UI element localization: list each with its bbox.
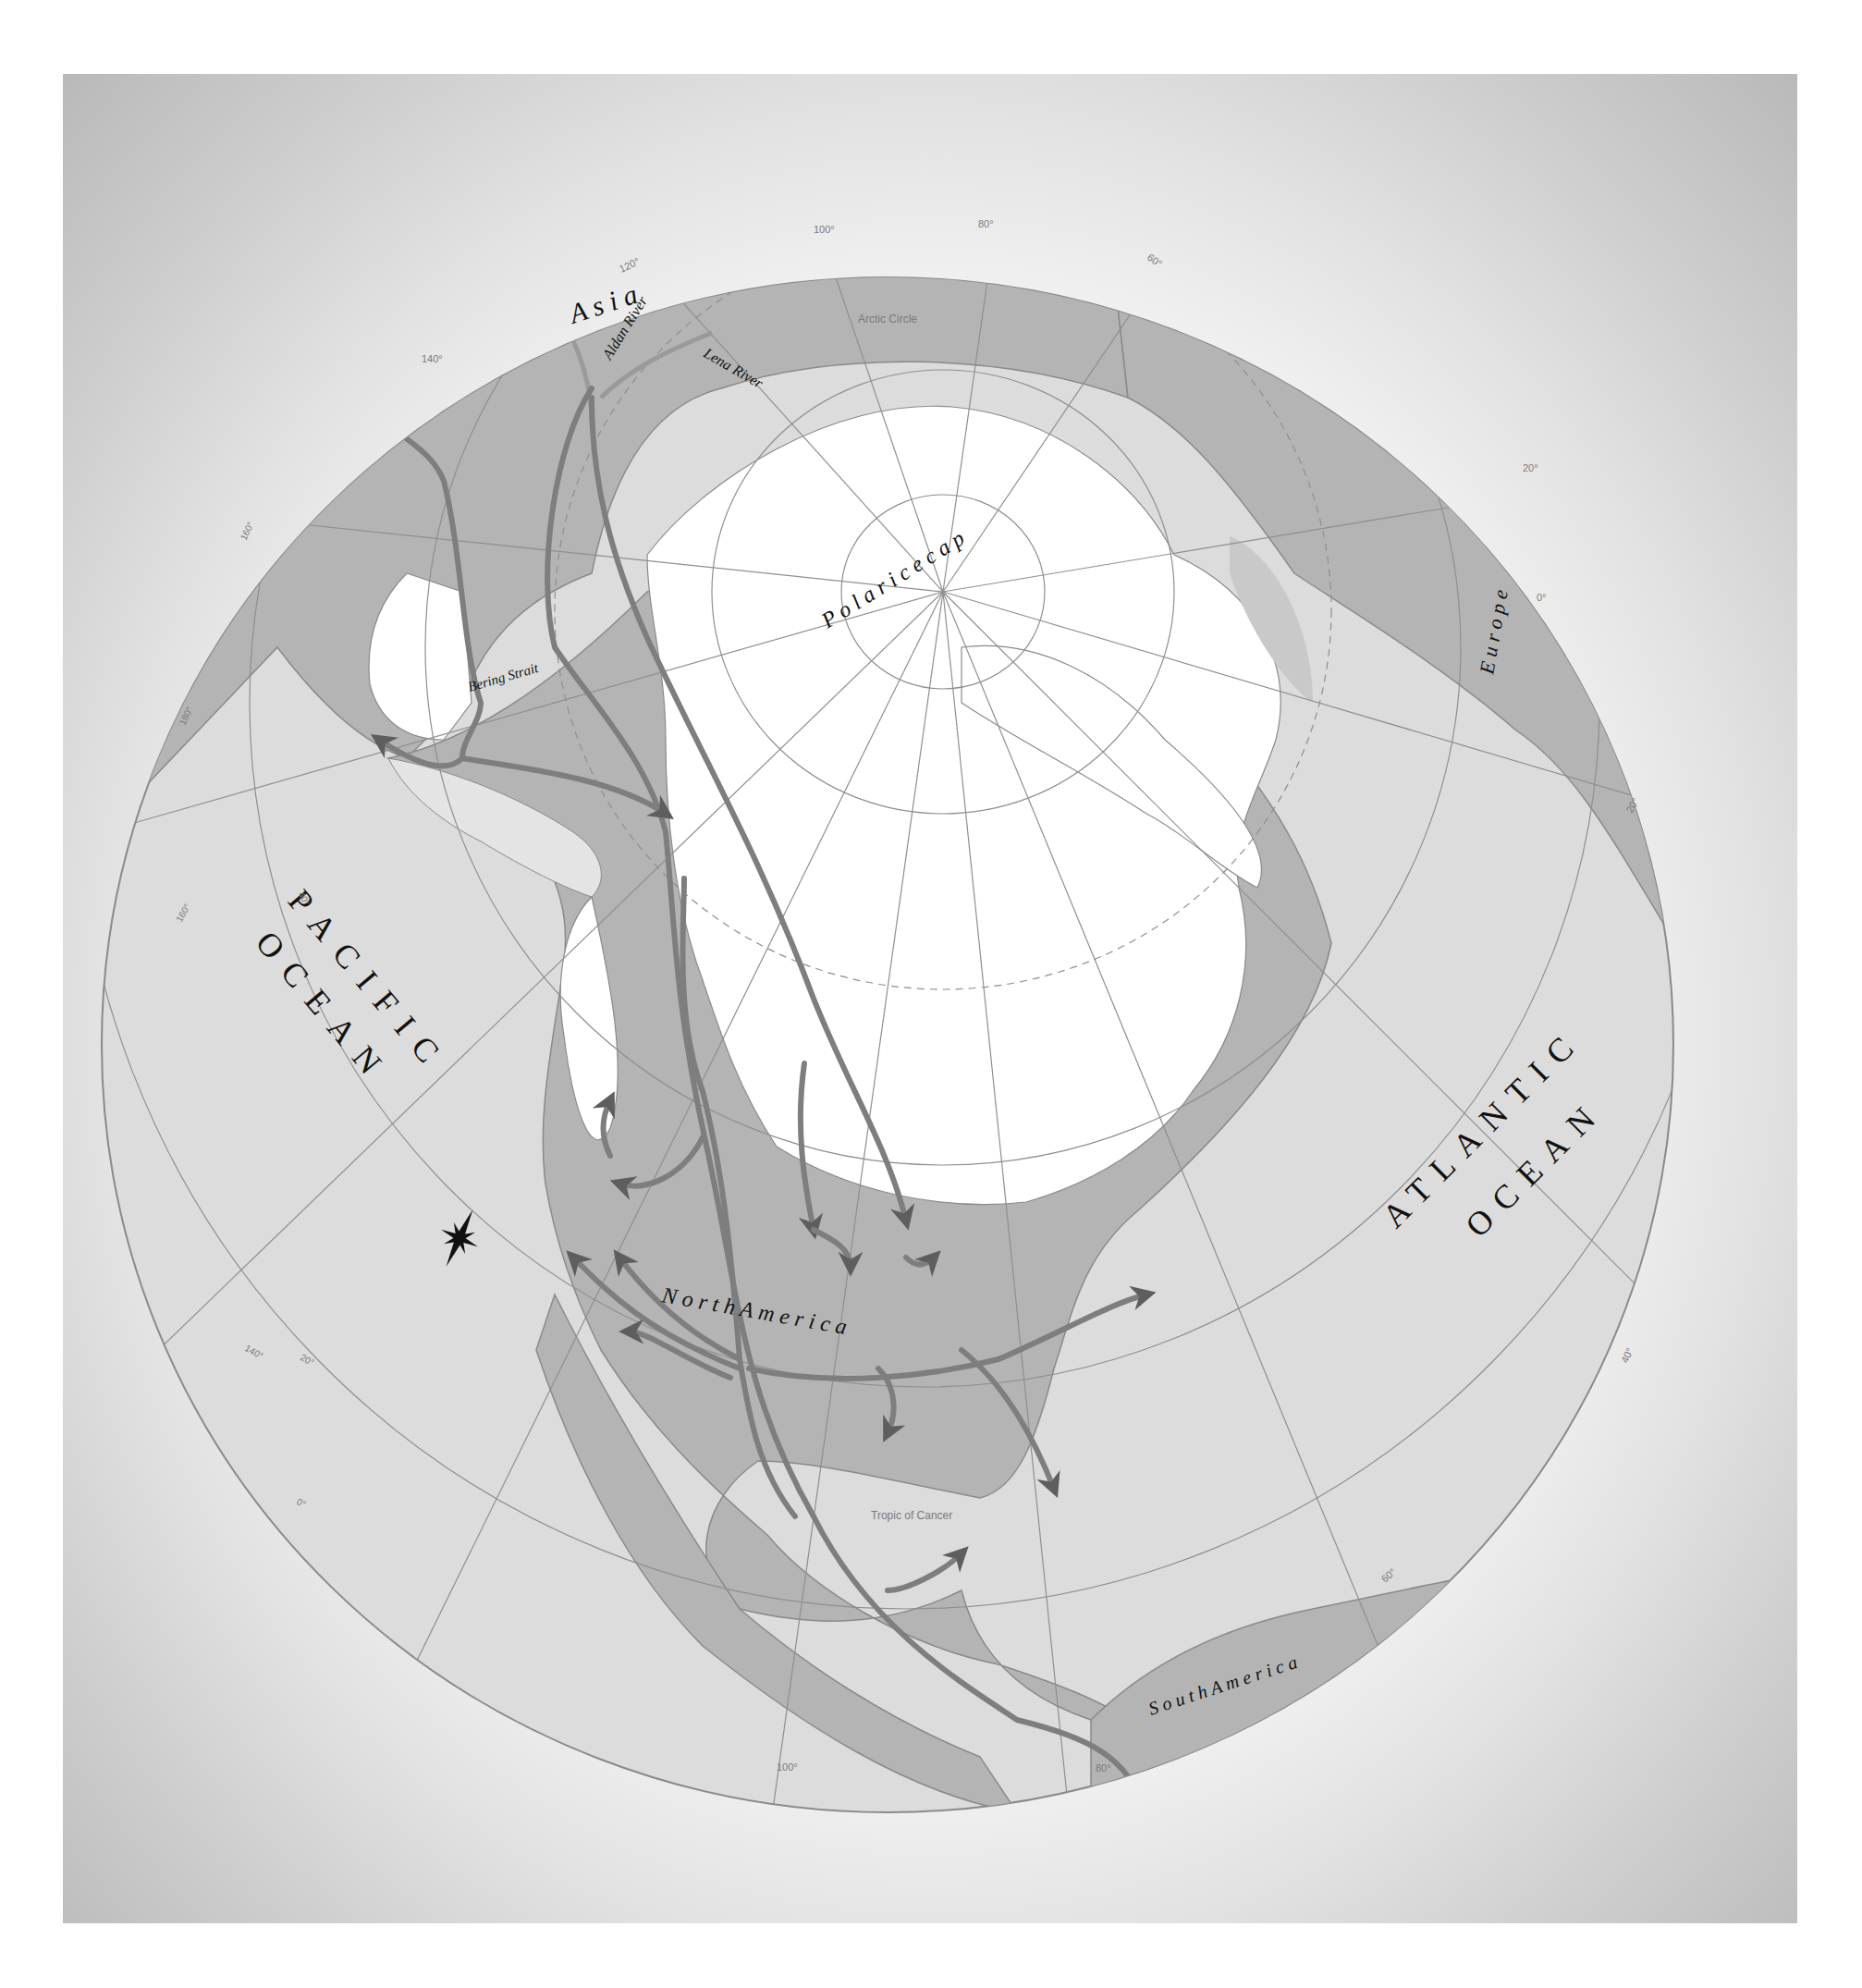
label-tropic-of-cancer: Tropic of Cancer xyxy=(871,1509,952,1522)
grid-60-top: 60° xyxy=(1145,252,1165,269)
label-arctic-circle: Arctic Circle xyxy=(858,313,917,325)
grid-100-top: 100° xyxy=(814,224,835,235)
grid-140-top: 140° xyxy=(422,353,443,364)
globe-map: A s i a Aldan River Lena River Bering St… xyxy=(63,74,1797,1923)
grid-20-europe: 20° xyxy=(1523,462,1538,473)
grid-100-bottom: 100° xyxy=(777,1761,798,1773)
grid-0-europe: 0° xyxy=(1537,592,1547,603)
map-frame: A s i a Aldan River Lena River Bering St… xyxy=(63,74,1797,1923)
grid-160-left: 160° xyxy=(239,520,256,541)
grid-80-top: 80° xyxy=(978,218,994,229)
grid-120: 120° xyxy=(618,255,642,274)
grid-40-right: 40° xyxy=(1619,1346,1635,1365)
grid-80-bottom: 80° xyxy=(1096,1762,1111,1773)
